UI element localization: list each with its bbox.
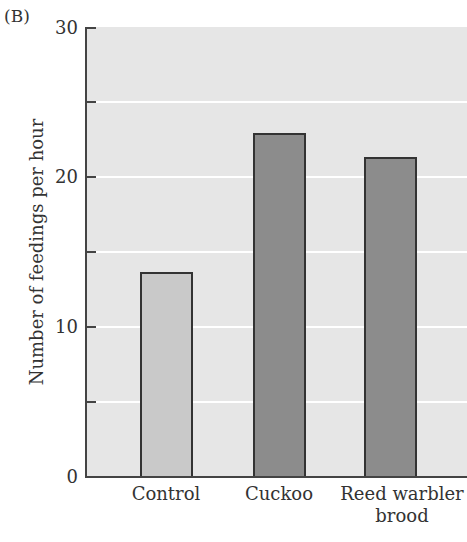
x-label-reed-warbler-brood: Reed warbler brood [332, 483, 467, 527]
x-label-line1: Reed warbler [332, 483, 467, 505]
tick-30 [86, 27, 96, 29]
bar-reed-warbler-brood [364, 157, 417, 478]
bar-cuckoo [253, 133, 306, 478]
gridline-25 [86, 101, 467, 103]
y-axis-title: Number of feedings per hour [26, 119, 47, 386]
x-axis [85, 476, 467, 478]
x-label-line2: brood [332, 505, 467, 527]
tick-10 [86, 326, 96, 328]
bar-control [140, 272, 193, 478]
tick-5 [86, 401, 96, 403]
x-label-cuckoo: Cuckoo [214, 483, 344, 505]
y-tick-label-10: 10 [48, 316, 78, 337]
y-tick-label-30: 30 [48, 17, 78, 38]
y-tick-label-0: 0 [48, 466, 78, 487]
tick-25 [86, 101, 96, 103]
panel-label: (B) [4, 6, 30, 26]
tick-20 [86, 176, 96, 178]
y-tick-label-20: 20 [48, 166, 78, 187]
x-label-control: Control [101, 483, 231, 505]
tick-15 [86, 251, 96, 253]
